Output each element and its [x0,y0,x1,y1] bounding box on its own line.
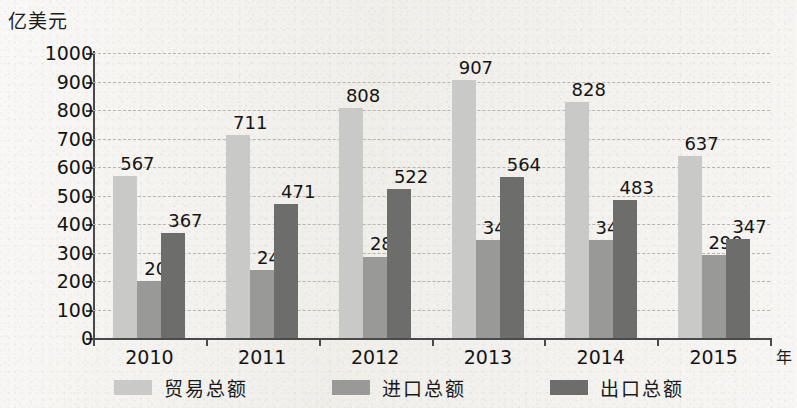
bar-value-label: 907 [446,59,506,77]
x-axis-tick [544,338,546,346]
bar-value-label: 347 [720,218,780,236]
bar-chart: 亿美元 年 5672003677112404718082865229073435… [0,0,797,408]
x-axis-tick-label: 2010 [104,346,194,368]
y-axis-tick-label: 500 [23,187,93,206]
legend-label: 出口总额 [600,374,684,401]
bar-value-label: 522 [381,168,441,186]
y-axis-tick-label: 1000 [23,44,93,63]
gridline [93,53,770,54]
legend-label: 进口总额 [382,374,466,401]
plot-area: 5672003677112404718082865229073435648283… [93,53,770,338]
legend-swatch [332,380,370,395]
bar-value-label: 367 [155,212,215,230]
y-axis-tick-label: 900 [23,73,93,92]
bar [363,257,387,339]
bar [500,177,524,338]
bar [250,270,274,338]
x-axis-tick [432,338,434,346]
y-axis-tick-label: 0 [23,329,93,348]
legend-swatch [114,380,152,395]
y-axis-tick-label: 200 [23,272,93,291]
gridline [93,139,770,140]
x-axis-tick-label: 2013 [443,346,533,368]
bar [226,135,250,338]
legend-swatch [550,380,588,395]
y-axis-tick-label: 700 [23,130,93,149]
legend-item: 贸易总额 [114,374,248,401]
bar [137,281,161,338]
bar [589,240,613,338]
bar [452,80,476,338]
bar [476,240,500,338]
bar [339,108,363,338]
y-axis-unit-label: 亿美元 [8,6,68,33]
y-axis-tick-label: 100 [23,301,93,320]
x-axis-tick [319,338,321,346]
bar-value-label: 637 [672,135,732,153]
bar [387,189,411,338]
y-axis-tick-label: 600 [23,158,93,177]
bar [702,255,726,338]
x-axis-tick [657,338,659,346]
bar-value-label: 567 [107,155,167,173]
x-axis-tick-label: 2015 [669,346,759,368]
gridline [93,110,770,111]
bar-value-label: 808 [333,87,393,105]
gridline [93,281,770,282]
bar [726,239,750,338]
y-axis-tick-label: 400 [23,215,93,234]
legend-label: 贸易总额 [164,374,248,401]
bar [113,176,137,338]
y-axis-tick-label: 300 [23,244,93,263]
y-axis-tick-label: 800 [23,101,93,120]
bar-value-label: 564 [494,156,554,174]
gridline [93,310,770,311]
gridline [93,253,770,254]
x-axis-tick-label: 2012 [330,346,420,368]
x-axis-tick-label: 2011 [217,346,307,368]
bar-value-label: 711 [220,114,280,132]
bar [161,233,185,338]
bar-value-label: 483 [607,179,667,197]
bar-value-label: 828 [559,81,619,99]
x-axis-tick-label: 2014 [556,346,646,368]
bar [274,204,298,338]
legend-item: 进口总额 [332,374,466,401]
bar [613,200,637,338]
legend-item: 出口总额 [550,374,684,401]
x-axis-tick [206,338,208,346]
bar-value-label: 471 [268,183,328,201]
x-axis-tick [93,338,95,346]
chart-legend: 贸易总额进口总额出口总额 [0,374,797,401]
gridline [93,196,770,197]
gridline [93,82,770,83]
x-axis-unit-label: 年 [776,344,792,368]
x-axis-tick [770,338,772,346]
